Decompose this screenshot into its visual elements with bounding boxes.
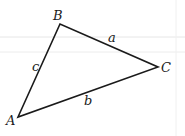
- diagram-canvas: B C A a b c: [0, 0, 185, 136]
- vertex-label-c: C: [161, 60, 171, 75]
- side-label-c: c: [32, 59, 40, 74]
- vertex-label-a: A: [5, 113, 15, 128]
- vertex-label-b: B: [52, 8, 63, 23]
- side-label-a: a: [108, 30, 116, 45]
- triangle-diagram: B C A a b c: [0, 0, 185, 136]
- side-label-b: b: [84, 93, 92, 108]
